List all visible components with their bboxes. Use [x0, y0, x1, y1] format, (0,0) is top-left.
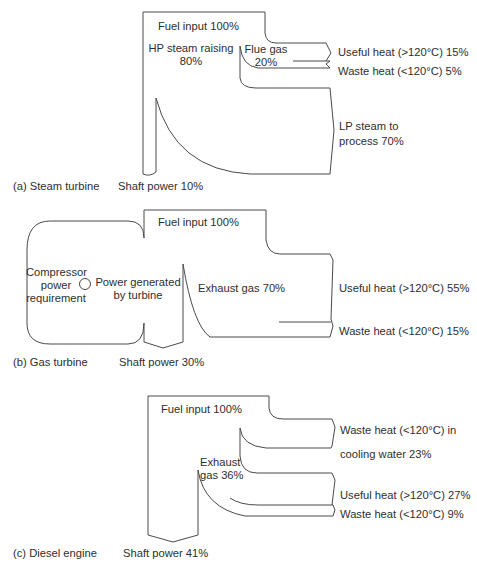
- diesel-exhaust-gas-line1: Exhaust: [200, 456, 240, 469]
- gas-shaft-power-label: Shaft power 30%: [119, 356, 204, 369]
- gas-power-generated-line2: by turbine: [95, 289, 181, 302]
- gas-compressor-line2: power: [26, 279, 86, 292]
- gas-compressor-line1: Compressor: [26, 266, 86, 279]
- steam-waste-heat-arrow: [293, 61, 330, 68]
- diesel-shaft-power-label: Shaft power 41%: [123, 547, 208, 560]
- gas-power-generated-label: Power generated by turbine: [95, 276, 181, 302]
- diesel-cooling-water-label: Waste heat (<120°C) in cooling water 23%: [340, 418, 456, 466]
- diesel-fuel-input-outline: [148, 396, 335, 535]
- gas-useful-heat-label: Useful heat (>120°C) 55%: [339, 282, 469, 295]
- diesel-waste-heat-label: Waste heat (<120°C) 9%: [340, 508, 464, 521]
- steam-caption: (a) Steam turbine: [13, 180, 99, 193]
- diesel-cooling-water-line1: Waste heat (<120°C) in: [340, 418, 456, 442]
- gas-fuel-input-outline: [144, 210, 333, 337]
- diesel-exhaust-gas-line2: gas 36%: [200, 469, 240, 482]
- steam-flue-gas-line2: 20%: [244, 56, 288, 69]
- diesel-fuel-input-label: Fuel input 100%: [161, 403, 242, 416]
- diesel-cooling-water-line2: cooling water 23%: [340, 442, 456, 466]
- steam-hp-steam-line2: 80%: [146, 55, 236, 68]
- steam-waste-heat-label: Waste heat (<120°C) 5%: [338, 65, 462, 78]
- gas-waste-heat-label: Waste heat (<120°C) 15%: [339, 325, 469, 338]
- steam-lp-steam-line1: LP steam to: [339, 119, 404, 134]
- gas-compressor-label: Compressor power requirement: [26, 266, 86, 305]
- steam-shaft-power: [143, 98, 156, 175]
- diesel-useful-heat-label: Useful heat (>120°C) 27%: [340, 489, 470, 502]
- steam-turbine-sankey: [143, 12, 334, 175]
- steam-shaft-power-label: Shaft power 10%: [118, 180, 203, 193]
- diesel-cooling-water-bottom: [240, 428, 335, 505]
- steam-hp-steam-line1: HP steam raising: [146, 42, 236, 55]
- steam-hp-steam-label: HP steam raising 80%: [146, 42, 236, 68]
- steam-fuel-input-label: Fuel input 100%: [158, 20, 239, 33]
- gas-compressor-line3: requirement: [26, 292, 86, 305]
- steam-lp-steam-label: LP steam to process 70%: [339, 119, 404, 149]
- steam-lp-steam-line2: process 70%: [339, 134, 404, 149]
- gas-power-generated-line1: Power generated: [95, 276, 181, 289]
- diesel-caption: (c) Diesel engine: [13, 547, 97, 560]
- gas-exhaust-gas-label: Exhaust gas 70%: [198, 282, 285, 295]
- steam-fuel-input-outline: [143, 12, 331, 171]
- diesel-exhaust-gas-label: Exhaust gas 36%: [200, 456, 240, 482]
- steam-flue-gas-line1: Flue gas: [244, 43, 288, 56]
- gas-caption: (b) Gas turbine: [13, 356, 88, 369]
- steam-useful-heat-label: Useful heat (>120°C) 15%: [338, 46, 468, 59]
- gas-fuel-input-label: Fuel input 100%: [158, 216, 239, 229]
- steam-flue-gas-label: Flue gas 20%: [244, 43, 288, 69]
- diesel-shaft-power: [148, 470, 198, 542]
